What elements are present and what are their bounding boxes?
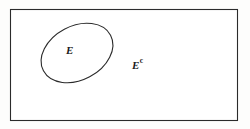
- complement-base-letter: E: [132, 59, 139, 71]
- venn-diagram: E Ec: [0, 0, 250, 129]
- venn-diagram-canvas: [0, 0, 250, 129]
- set-e-label: E: [66, 45, 73, 56]
- complement-superscript: c: [140, 56, 143, 65]
- set-e-complement-label: Ec: [132, 58, 143, 71]
